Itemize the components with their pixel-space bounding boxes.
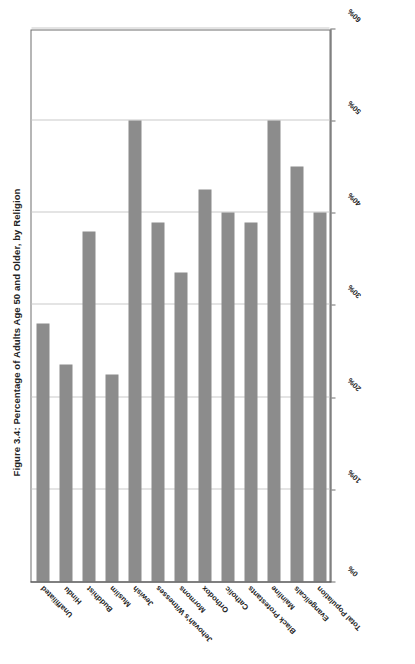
- bar[interactable]: [267, 120, 280, 581]
- bar[interactable]: [151, 222, 164, 581]
- gridline: [31, 27, 329, 28]
- y-axis-line: [30, 581, 331, 582]
- bar[interactable]: [221, 212, 234, 581]
- bar[interactable]: [244, 222, 257, 581]
- bar-row: [239, 30, 262, 581]
- category-label: Jewish: [130, 584, 154, 608]
- x-axis-tick-label: 50%: [345, 99, 362, 116]
- bar-row: [169, 30, 192, 581]
- bar-row: [100, 30, 123, 581]
- bar-row: [216, 30, 239, 581]
- x-axis-tick-mark: [331, 489, 335, 490]
- bar-row: [31, 30, 54, 581]
- x-axis-tick-mark: [331, 305, 335, 306]
- x-axis-tick-label: 20%: [345, 375, 362, 392]
- bar[interactable]: [59, 364, 72, 581]
- bar[interactable]: [174, 272, 187, 581]
- x-axis-tick-mark: [331, 212, 335, 213]
- x-axis-tick-label: 0%: [345, 564, 359, 578]
- plot-area: [30, 29, 330, 582]
- bar-row: [285, 30, 308, 581]
- bar-row: [308, 30, 331, 581]
- x-axis-tick-label: 60%: [345, 7, 362, 24]
- bar[interactable]: [313, 212, 326, 581]
- bar[interactable]: [105, 374, 118, 581]
- chart-title: Figure 3.4: Percentage of Adults Age 50 …: [10, 0, 21, 664]
- x-axis-tick-label: 40%: [345, 191, 362, 208]
- x-axis-tick-mark: [331, 581, 335, 582]
- bar[interactable]: [128, 120, 141, 581]
- x-axis-tick-mark: [331, 397, 335, 398]
- bar[interactable]: [290, 166, 303, 581]
- x-axis-tick-mark: [331, 28, 335, 29]
- x-axis-tick-label: 30%: [345, 283, 362, 300]
- bar[interactable]: [82, 231, 95, 581]
- bar-row: [193, 30, 216, 581]
- bar-row: [54, 30, 77, 581]
- bar-row: [146, 30, 169, 581]
- bar[interactable]: [198, 189, 211, 581]
- x-axis-tick-mark: [331, 120, 335, 121]
- bar[interactable]: [36, 323, 49, 581]
- x-axis-tick-label: 10%: [345, 467, 362, 484]
- bar-row: [123, 30, 146, 581]
- bar-row: [262, 30, 285, 581]
- figure-container: Figure 3.4: Percentage of Adults Age 50 …: [0, 0, 415, 664]
- bar-row: [77, 30, 100, 581]
